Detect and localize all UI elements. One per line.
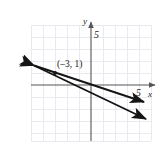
coordinate-plane-graph: 5 5 y x (–3, 1) (0, 0, 167, 154)
x-axis-name-label: x (147, 89, 152, 99)
x-axis-tick-label-5: 5 (136, 87, 141, 98)
y-axis-name-label: y (82, 16, 87, 26)
figure-container: (1) (0, 0, 167, 154)
y-axis-tick-label-5: 5 (94, 29, 99, 40)
intersection-point-label: (–3, 1) (57, 59, 82, 70)
intersection-point-marker (53, 71, 57, 75)
